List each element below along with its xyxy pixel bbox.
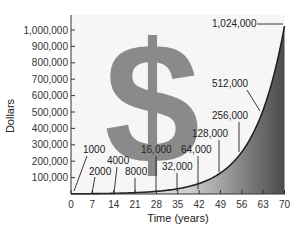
x-tick-label: 21 xyxy=(129,199,141,210)
x-tick-label: 63 xyxy=(258,199,270,210)
annotation-label: 16,000 xyxy=(141,144,172,155)
y-tick-label: 800,000 xyxy=(32,57,69,68)
y-axis-ticks: 100,000200,000300,000400,000500,000600,0… xyxy=(24,25,76,184)
y-tick-label: 600,000 xyxy=(32,90,69,101)
exponential-growth-chart: $ 100,000200,000300,000400,000500,000600… xyxy=(0,0,293,230)
annotation-label: 1,024,000 xyxy=(212,18,257,29)
x-tick-label: 42 xyxy=(194,199,206,210)
y-tick-label: 400,000 xyxy=(32,123,69,134)
annotation-label: 2000 xyxy=(89,166,112,177)
annotation-label: 1000 xyxy=(83,144,106,155)
y-tick-label: 1,000,000 xyxy=(24,25,69,36)
x-tick-label: 0 xyxy=(68,199,74,210)
x-tick-label: 56 xyxy=(236,199,248,210)
x-tick-label: 7 xyxy=(90,199,96,210)
y-tick-label: 300,000 xyxy=(32,139,69,150)
x-tick-label: 70 xyxy=(279,199,291,210)
x-tick-label: 35 xyxy=(172,199,184,210)
y-tick-label: 200,000 xyxy=(32,156,69,167)
y-axis-title: Dollars xyxy=(4,98,16,133)
y-tick-label: 100,000 xyxy=(32,172,69,183)
y-tick-label: 700,000 xyxy=(32,74,69,85)
y-tick-label: 500,000 xyxy=(32,107,69,118)
annotation-label: 512,000 xyxy=(212,78,249,89)
annotation-label: 256,000 xyxy=(212,110,249,121)
annotation-label: 32,000 xyxy=(162,161,193,172)
x-tick-label: 49 xyxy=(215,199,227,210)
y-tick-label: 900,000 xyxy=(32,41,69,52)
annotation-label: 128,000 xyxy=(192,128,229,139)
x-tick-label: 28 xyxy=(151,199,163,210)
annotation-label: 8000 xyxy=(125,166,148,177)
annotation-label: 64,000 xyxy=(181,144,212,155)
x-tick-label: 14 xyxy=(108,199,120,210)
annotation-label: 4000 xyxy=(107,155,130,166)
x-axis-title: Time (years) xyxy=(147,212,208,224)
